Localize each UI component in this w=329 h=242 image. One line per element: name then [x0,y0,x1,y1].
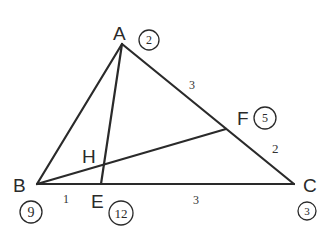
mass-b: 9 [20,201,42,223]
ratio-be: 1 [63,192,69,206]
vertex-label-h: H [82,146,96,167]
svg-text:9: 9 [28,205,35,220]
mass-f: 5 [254,107,276,129]
ratio-fc: 2 [272,141,279,156]
vertex-label-f: F [237,108,249,129]
ratio-af: 3 [189,78,195,92]
svg-text:5: 5 [262,111,268,125]
vertex-label-e: E [91,191,104,212]
svg-text:2: 2 [146,33,152,47]
svg-text:3: 3 [304,205,310,217]
segment-ac [122,44,294,184]
vertex-label-b: B [13,175,26,196]
mass-a: 2 [139,30,159,50]
svg-text:12: 12 [115,206,128,221]
mass-c: 3 [298,202,316,220]
ratio-ec: 3 [193,193,199,207]
vertex-label-c: C [303,175,317,196]
mass-e: 12 [109,201,133,225]
vertex-label-a: A [113,23,126,44]
geometry-diagram: A B C E F H 2 9 3 12 5 3 2 1 3 [0,0,329,242]
